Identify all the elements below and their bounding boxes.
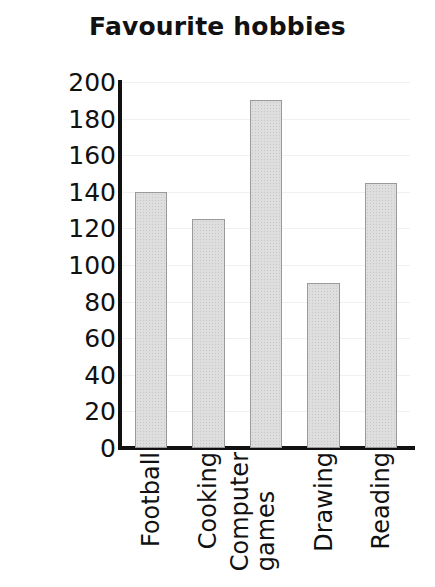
y-tick-label: 20 bbox=[56, 399, 116, 424]
x-tick-label-line: Drawing bbox=[310, 452, 338, 552]
bar[interactable] bbox=[135, 192, 167, 448]
bar-slot bbox=[180, 82, 238, 448]
bar-slot bbox=[295, 82, 353, 448]
y-tick-label: 80 bbox=[56, 289, 116, 314]
x-tick-label-line: Reading bbox=[367, 452, 395, 549]
bar[interactable] bbox=[250, 100, 282, 448]
x-tick-label-slot: Reading bbox=[352, 452, 410, 587]
x-tick-label-line: games bbox=[253, 452, 279, 571]
y-axis-tick-labels: 020406080100120140160180200 bbox=[52, 82, 116, 448]
x-tick-label-slot: Drawing bbox=[295, 452, 353, 587]
y-tick-label: 140 bbox=[56, 179, 116, 204]
bar[interactable] bbox=[307, 283, 339, 448]
y-tick-label: 0 bbox=[56, 436, 116, 461]
bar[interactable] bbox=[365, 183, 397, 448]
x-tick-label: Cooking bbox=[195, 452, 221, 549]
y-tick-label: 100 bbox=[56, 253, 116, 278]
bar-slot bbox=[122, 82, 180, 448]
bar-slot bbox=[352, 82, 410, 448]
x-tick-label-slot: Computergames bbox=[237, 452, 295, 587]
bar-slot bbox=[237, 82, 295, 448]
x-tick-label-line: Cooking bbox=[194, 452, 222, 549]
y-tick-label: 160 bbox=[56, 143, 116, 168]
bar-chart: Favourite hobbies Number of people 02040… bbox=[0, 0, 435, 587]
x-axis-tick-labels: FootballCookingComputergamesDrawingReadi… bbox=[122, 452, 410, 587]
bar[interactable] bbox=[192, 219, 224, 448]
y-tick-label: 200 bbox=[56, 70, 116, 95]
y-tick-label: 180 bbox=[56, 106, 116, 131]
x-tick-label: Computergames bbox=[227, 452, 279, 571]
y-tick-label: 60 bbox=[56, 326, 116, 351]
x-tick-label-line: Football bbox=[137, 452, 165, 547]
y-tick-label: 40 bbox=[56, 362, 116, 387]
x-tick-label: Drawing bbox=[311, 452, 337, 552]
x-tick-label: Reading bbox=[368, 452, 394, 549]
x-tick-label-slot: Football bbox=[122, 452, 180, 587]
y-tick-label: 120 bbox=[56, 216, 116, 241]
bars-group bbox=[122, 82, 410, 448]
x-tick-label-line: Computer bbox=[226, 452, 254, 571]
chart-title: Favourite hobbies bbox=[0, 12, 435, 41]
x-tick-label: Football bbox=[138, 452, 164, 547]
